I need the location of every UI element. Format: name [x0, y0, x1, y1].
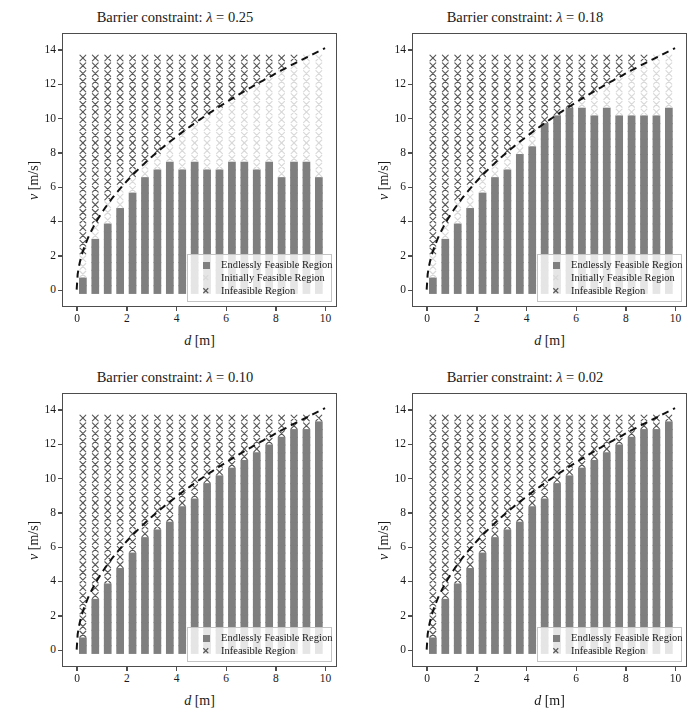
panel-title-eq: = [212, 9, 227, 25]
x-tick-label: 4 [162, 673, 192, 685]
x-axis-variable: d [534, 693, 541, 708]
y-tick-mark [408, 512, 412, 513]
y-tick-label: 0 [36, 284, 56, 296]
y-tick-mark [58, 49, 62, 50]
x-tick-label: 8 [611, 673, 641, 685]
x-tick-mark [275, 307, 276, 311]
x-tick-mark [476, 307, 477, 311]
x-tick-label: 6 [211, 313, 241, 325]
x-tick-mark [526, 307, 527, 311]
legend-square-icon [543, 262, 569, 269]
y-tick-mark [58, 290, 62, 291]
legend-item[interactable]: Endlessly Feasible Region [193, 259, 325, 272]
panel-title-value: 0.18 [578, 9, 603, 25]
legend-swatch [203, 635, 210, 642]
legend-square-icon [543, 635, 569, 642]
panel-lambda-025: Barrier constraint: λ = 0.25024681012140… [0, 0, 350, 360]
x-tick-mark [76, 667, 77, 671]
x-tick-label: 6 [561, 673, 591, 685]
x-tick-mark [176, 307, 177, 311]
panel-title-prefix: Barrier constraint: [447, 9, 557, 25]
x-tick-label: 8 [261, 313, 291, 325]
y-tick-mark [58, 615, 62, 616]
y-tick-label: 10 [386, 473, 406, 485]
x-axis-label: d [m] [412, 333, 687, 349]
y-tick-label: 8 [386, 507, 406, 519]
y-tick-label: 14 [36, 44, 56, 56]
x-tick-label: 6 [211, 673, 241, 685]
y-tick-label: 2 [36, 250, 56, 262]
y-tick-mark [58, 187, 62, 188]
panel-title-value: 0.02 [578, 369, 603, 385]
legend-item[interactable]: ✕Initially Feasible Region [193, 272, 325, 285]
y-tick-label: 12 [386, 78, 406, 90]
legend-item[interactable]: ✕Infeasible Region [193, 645, 325, 658]
x-tick-label: 0 [62, 313, 92, 325]
y-axis-label: v [m/s] [376, 521, 392, 560]
y-axis-variable: v [376, 554, 391, 560]
x-tick-mark [675, 667, 676, 671]
x-tick-mark [476, 667, 477, 671]
x-tick-mark [675, 307, 676, 311]
panel-title-prefix: Barrier constraint: [447, 369, 557, 385]
legend-item[interactable]: ✕Infeasible Region [193, 285, 325, 298]
plot-area [62, 393, 337, 667]
y-tick-mark [58, 444, 62, 445]
figure-canvas: Barrier constraint: λ = 0.25024681012140… [0, 0, 700, 721]
y-tick-mark [408, 444, 412, 445]
x-tick-label: 4 [162, 313, 192, 325]
y-tick-label: 2 [386, 250, 406, 262]
legend-item[interactable]: Endlessly Feasible Region [543, 632, 675, 645]
y-tick-mark [408, 84, 412, 85]
x-tick-mark [76, 307, 77, 311]
y-tick-label: 14 [386, 404, 406, 416]
panel-title-eq: = [212, 369, 227, 385]
y-tick-mark [58, 409, 62, 410]
y-tick-label: 4 [36, 215, 56, 227]
legend-item[interactable]: Endlessly Feasible Region [543, 259, 675, 272]
y-axis-label: v [m/s] [376, 161, 392, 200]
x-axis-unit: [m] [545, 693, 565, 708]
y-tick-mark [408, 409, 412, 410]
y-tick-label: 10 [36, 473, 56, 485]
legend-label: Endlessly Feasible Region [569, 633, 682, 644]
x-tick-label: 4 [512, 313, 542, 325]
y-tick-mark [408, 581, 412, 582]
x-tick-mark [275, 667, 276, 671]
y-tick-mark [58, 255, 62, 256]
panel-lambda-002: Barrier constraint: λ = 0.02024681012140… [350, 360, 700, 721]
y-axis-variable: v [26, 194, 41, 200]
legend-x-dark-icon: ✕ [543, 647, 569, 656]
x-tick-label: 2 [112, 673, 142, 685]
y-tick-mark [58, 650, 62, 651]
y-tick-mark [408, 187, 412, 188]
legend-item[interactable]: ✕Initially Feasible Region [543, 272, 675, 285]
y-tick-label: 14 [386, 44, 406, 56]
x-axis-label: d [m] [412, 693, 687, 709]
x-tick-label: 10 [661, 673, 691, 685]
y-tick-label: 4 [36, 575, 56, 587]
panel-title-prefix: Barrier constraint: [97, 369, 207, 385]
legend-square-icon [193, 262, 219, 269]
y-tick-label: 14 [36, 404, 56, 416]
legend-swatch [553, 635, 560, 642]
x-axis-variable: d [184, 693, 191, 708]
y-tick-label: 4 [386, 575, 406, 587]
y-tick-label: 0 [36, 644, 56, 656]
x-tick-mark [625, 307, 626, 311]
panel-title-value: 0.10 [228, 369, 253, 385]
plot-area [412, 393, 687, 667]
x-tick-mark [226, 307, 227, 311]
legend-item[interactable]: ✕Infeasible Region [543, 645, 675, 658]
legend-item[interactable]: ✕Infeasible Region [543, 285, 675, 298]
y-tick-label: 2 [36, 610, 56, 622]
x-tick-mark [625, 667, 626, 671]
x-tick-label: 0 [412, 673, 442, 685]
x-tick-mark [226, 667, 227, 671]
y-tick-label: 0 [386, 284, 406, 296]
legend-item[interactable]: Endlessly Feasible Region [193, 632, 325, 645]
x-axis-unit: [m] [195, 693, 215, 708]
y-tick-mark [58, 152, 62, 153]
x-axis-variable: d [184, 333, 191, 348]
y-tick-label: 4 [386, 215, 406, 227]
